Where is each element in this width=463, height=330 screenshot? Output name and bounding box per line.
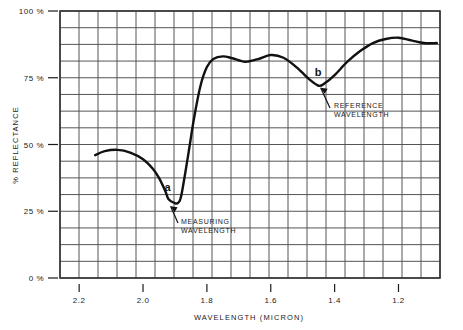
x-tick-label: 1.4 <box>328 296 341 305</box>
x-tick-label: 2.0 <box>137 296 150 305</box>
grid-lines <box>60 11 440 278</box>
x-axis-title: WAVELENGTH (MICRON) <box>194 313 304 322</box>
y-tick-label: 75 % <box>24 74 44 83</box>
y-tick-label: 0 % <box>29 274 44 283</box>
annotation-b-line2: WAVELENGTH <box>334 111 389 118</box>
y-tick-label: 50 % <box>24 141 44 150</box>
x-tick-label: 1.2 <box>392 296 405 305</box>
x-tick-label: 2.2 <box>73 296 86 305</box>
y-tick-label: 100 % <box>19 7 44 16</box>
y-tick-label: 25 % <box>24 207 44 216</box>
point-label-a: a <box>165 181 172 193</box>
annotation-b-line1: REFERENCE <box>334 102 383 109</box>
annotation-a-line1: MEASURING <box>181 218 230 225</box>
y-axis-title: % REFLECTANCE <box>11 106 20 184</box>
reflectance-spectrum-chart: 0 %25 %50 %75 %100 % 2.22.01.81.61.41.2 … <box>0 0 463 330</box>
x-tick-label: 1.8 <box>201 296 214 305</box>
x-tick-label: 1.6 <box>264 296 277 305</box>
annotation-a-line2: WAVELENGTH <box>181 227 236 234</box>
point-label-b: b <box>315 66 322 78</box>
